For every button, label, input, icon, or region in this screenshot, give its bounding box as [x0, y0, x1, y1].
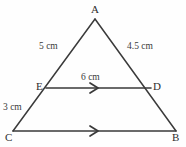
measurement-label-ad: 4.5 cm — [127, 42, 153, 52]
vertex-label-a: A — [91, 4, 99, 15]
segment-ab — [95, 19, 176, 131]
vertex-label-e: E — [36, 81, 43, 92]
vertex-label-d: D — [153, 81, 161, 92]
measurement-label-ed: 6 cm — [81, 73, 100, 83]
measurement-label-ec: 3 cm — [3, 103, 22, 113]
vertex-label-c: C — [5, 132, 12, 143]
vertex-label-b: B — [172, 132, 179, 143]
geometry-figure: A B C D E 5 cm 4.5 cm 6 cm 3 cm — [0, 0, 186, 147]
measurement-label-ae: 5 cm — [39, 42, 58, 52]
